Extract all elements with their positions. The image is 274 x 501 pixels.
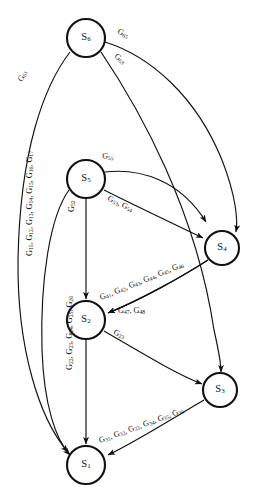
edge-label-e-s2-s3: G23	[112, 328, 126, 341]
node-layer: S6S5S4S2S3S1	[67, 19, 239, 484]
node-s3[interactable]: S3	[203, 373, 237, 407]
node-s4[interactable]: S4	[205, 231, 239, 265]
edge-label-e-s5-s2: G52	[67, 200, 76, 212]
edge-label-e-s5-s4-b: G53, G54	[106, 194, 135, 214]
edge-label-e-s6-s5-right: G65	[116, 27, 131, 41]
edge-label-e-s5-s1-left: G11, G12, G13, G14, G15, G16, G17	[25, 151, 34, 256]
edge-s5-to-s4	[105, 171, 206, 222]
edge-label-e-s5-s4: G55	[102, 151, 115, 162]
edge-label-e-s3-s1: G31, G32, G33, G34, G35, G36	[98, 406, 186, 445]
edge-s5-to-s4	[104, 190, 203, 238]
edge-label-e-s6-s3: G63	[113, 52, 128, 67]
graph-canvas: S6S5S4S2S3S1 G61G65G63G55G53, G54G52G41,…	[0, 0, 274, 501]
node-s5[interactable]: S5	[67, 160, 105, 198]
node-s1[interactable]: S1	[67, 446, 105, 484]
state-diagram: S6S5S4S2S3S1 G61G65G63G55G53, G54G52G41,…	[0, 0, 274, 501]
edge-label-e-s6-s1: G61	[16, 68, 30, 83]
edge-label-e-s2-s1: G22, G23, G24, G25, G26	[65, 296, 74, 370]
node-s6[interactable]: S6	[67, 19, 105, 57]
label-layer: G61G65G63G55G53, G54G52G41, G42, G43, G4…	[16, 27, 185, 445]
edge-label-e-s4-s2-b: G47, G48	[118, 306, 145, 315]
edge-s6-to-s3	[101, 52, 221, 372]
